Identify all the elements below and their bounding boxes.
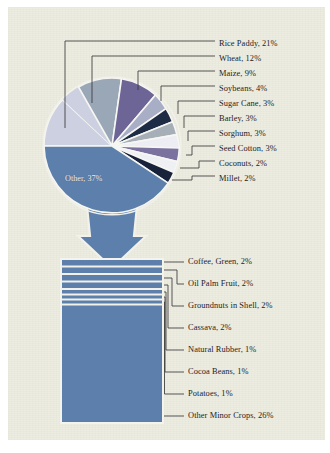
leader-oil-palm-fruit <box>164 270 184 284</box>
leader-potatoes <box>164 302 184 394</box>
pie-label-sugar-cane: Sugar Cane, 3% <box>219 99 274 109</box>
figure-page: Rice Paddy, 21% Wheat, 12% Maize, 9% Soy… <box>0 0 330 453</box>
leader-soybeans <box>161 86 215 101</box>
pie-label-maize: Maize, 9% <box>219 69 256 79</box>
leader-groundnuts <box>164 278 184 306</box>
leader-sorghum <box>188 131 215 141</box>
leader-natural-rubber <box>164 292 184 350</box>
leader-coconuts <box>180 161 215 168</box>
bar-label-potatoes: Potatoes, 1% <box>188 389 233 399</box>
pie-label-sorghum: Sorghum, 3% <box>219 129 266 139</box>
bar-label-oil-palm-fruit: Oil Palm Fruit, 2% <box>188 279 253 289</box>
pie-chart <box>43 77 181 215</box>
bar-label-natural-rubber: Natural Rubber, 1% <box>188 345 256 355</box>
bar-leader-lines <box>164 262 184 416</box>
bar-label-groundnuts: Groundnuts in Shell, 2% <box>188 301 273 311</box>
leader-seed-cotton <box>186 146 215 155</box>
chart-artwork <box>0 0 330 453</box>
pie-label-seed-cotton: Seed Cotton, 3% <box>219 144 277 154</box>
pie-label-soybeans: Soybeans, 4% <box>219 84 267 94</box>
stacked-bar-chart <box>61 259 163 423</box>
pie-label-other: Other, 37% <box>65 174 102 183</box>
pie-label-wheat: Wheat, 12% <box>219 54 261 64</box>
bar-outline <box>61 259 163 423</box>
pie-label-barley: Barley, 3% <box>219 114 257 124</box>
bar-label-cassava: Cassava, 2% <box>188 323 232 333</box>
bar-label-cocoa-beans: Cocoa Beans, 1% <box>188 367 249 377</box>
leader-sugar-cane <box>178 101 215 114</box>
pie-label-millet: Millet, 2% <box>219 174 256 184</box>
leader-cocoa-beans <box>164 297 184 372</box>
leader-barley <box>184 116 215 128</box>
bar-label-other-minor-crops: Other Minor Crops, 26% <box>188 411 274 421</box>
leader-cassava <box>164 285 184 328</box>
bar-label-coffee-green: Coffee, Green, 2% <box>188 257 252 267</box>
pie-label-coconuts: Coconuts, 2% <box>219 159 267 169</box>
leader-millet <box>172 176 215 180</box>
pie-label-rice-paddy: Rice Paddy, 21% <box>219 39 278 49</box>
leader-maize <box>138 71 215 90</box>
